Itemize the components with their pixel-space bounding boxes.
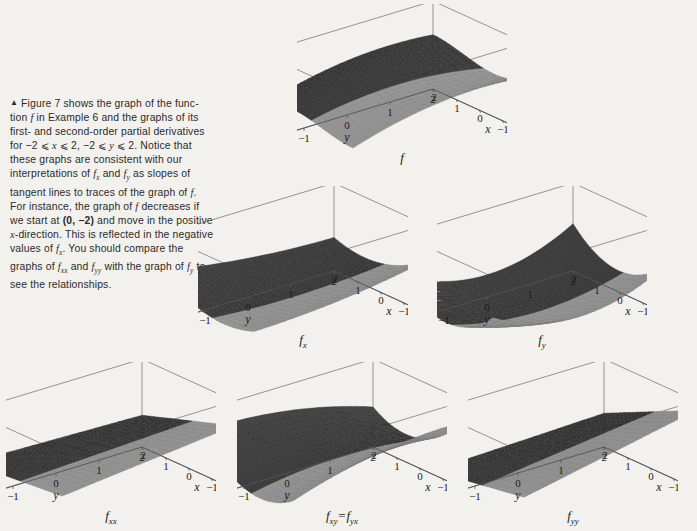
figure-number: 7 [54, 98, 60, 109]
plot-label-fxy: fxy=fyx [237, 508, 447, 526]
plot-label-fy: fy [437, 332, 647, 350]
caption-body: Figure 7 shows the graph of the func-tio… [10, 98, 213, 290]
caption-triangle-icon: ▲ [10, 98, 18, 107]
svg-text:0: 0 [417, 470, 423, 482]
plot-label-fyy: fyy [468, 508, 678, 526]
figure-caption: ▲Figure 7 shows the graph of the func-ti… [10, 96, 215, 292]
svg-text:1: 1 [558, 464, 564, 476]
svg-text:−1: −1 [668, 481, 678, 493]
svg-text:1: 1 [355, 284, 361, 296]
svg-text:1: 1 [387, 106, 393, 118]
svg-text:2: 2 [431, 91, 437, 103]
svg-text:0: 0 [378, 294, 384, 306]
svg-text:1: 1 [454, 102, 460, 114]
svg-text:2: 2 [332, 273, 338, 285]
surface-plot-fxy: 40200−20−40z−2−1012y210−1−2xfxy=fyx [237, 362, 447, 526]
svg-text:y: y [483, 312, 490, 326]
svg-text:−1: −1 [497, 123, 507, 135]
svg-text:−1: −1 [7, 490, 19, 502]
svg-text:1: 1 [394, 460, 400, 472]
svg-text:0: 0 [648, 470, 654, 482]
svg-text:2: 2 [571, 273, 577, 285]
svg-text:−1: −1 [637, 305, 647, 317]
svg-text:x: x [424, 480, 431, 494]
svg-text:x: x [385, 304, 392, 318]
example-number: 6 [92, 112, 98, 123]
svg-text:−1: −1 [469, 490, 481, 502]
surface-plot-fy: 40200z−2−1012y210−1−2xfy [437, 186, 647, 350]
svg-text:x: x [484, 122, 491, 136]
svg-text:0: 0 [617, 294, 623, 306]
svg-text:0: 0 [186, 470, 192, 482]
surface-plot-f: 200−20−40z−2−1012y210−1−2xf [297, 4, 507, 166]
surface-plot-fyy: 40200−20−40z−2−1012y210−1−2xfyy [468, 362, 678, 526]
svg-text:−1: −1 [238, 490, 250, 502]
svg-text:−1: −1 [298, 132, 310, 144]
svg-text:1: 1 [527, 288, 533, 300]
svg-text:0: 0 [477, 112, 483, 124]
svg-text:x: x [193, 480, 200, 494]
svg-text:1: 1 [288, 288, 294, 300]
svg-text:2: 2 [140, 449, 146, 461]
svg-text:y: y [52, 488, 59, 502]
plot-label-fxx: fxx [6, 508, 216, 526]
svg-text:x: x [655, 480, 662, 494]
svg-text:−1: −1 [398, 305, 408, 317]
svg-text:−1: −1 [437, 481, 447, 493]
svg-text:−1: −1 [438, 314, 450, 326]
svg-text:y: y [283, 488, 290, 502]
svg-text:x: x [624, 304, 631, 318]
svg-text:1: 1 [594, 284, 600, 296]
surface-plot-fx: 40200−20z−2−1012y210−1−2xfx [198, 186, 408, 350]
svg-text:y: y [244, 312, 251, 326]
plot-label-f: f [297, 150, 507, 166]
surface-plot-fxx: 200−20z−2−1012y210−1−2xfxx [6, 362, 216, 526]
svg-text:1: 1 [96, 464, 102, 476]
plot-label-fx: fx [198, 332, 408, 350]
svg-text:y: y [343, 130, 350, 144]
svg-text:y: y [514, 488, 521, 502]
svg-text:1: 1 [163, 460, 169, 472]
svg-text:2: 2 [371, 449, 377, 461]
svg-text:2: 2 [602, 449, 608, 461]
svg-text:−1: −1 [199, 314, 211, 326]
svg-text:−1: −1 [206, 481, 216, 493]
svg-text:1: 1 [327, 464, 333, 476]
svg-text:1: 1 [625, 460, 631, 472]
